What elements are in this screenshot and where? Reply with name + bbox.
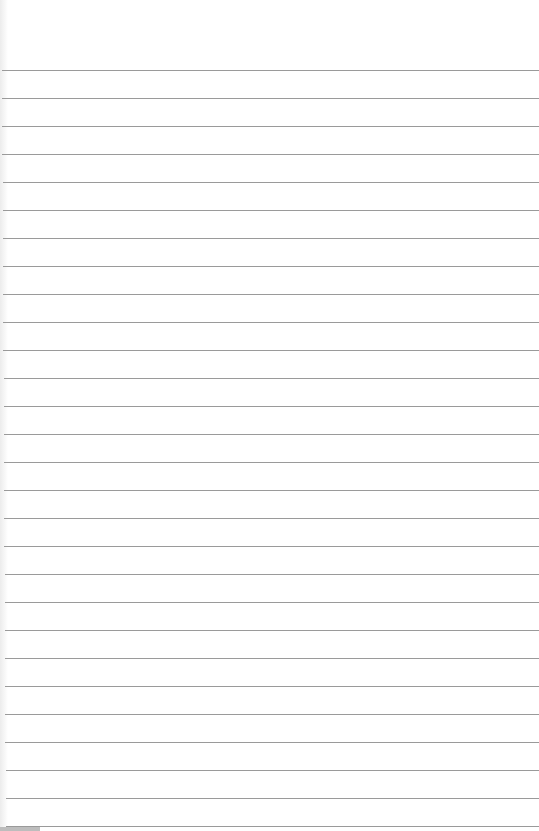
ruled-line <box>5 602 539 603</box>
left-edge-shading <box>0 0 8 831</box>
ruled-line <box>4 518 539 519</box>
ruled-line <box>5 630 539 631</box>
ruled-line <box>5 686 539 687</box>
ruled-line <box>2 98 539 99</box>
ruled-line <box>2 126 539 127</box>
ruled-line <box>5 574 539 575</box>
lined-paper-page <box>0 0 539 831</box>
ruled-line <box>3 322 539 323</box>
ruled-line <box>4 434 539 435</box>
ruled-line <box>3 294 539 295</box>
ruled-line <box>5 714 539 715</box>
ruled-line <box>4 546 539 547</box>
bottom-shadow <box>0 827 40 831</box>
ruled-line <box>5 658 539 659</box>
ruled-line <box>4 378 539 379</box>
ruled-line <box>5 742 539 743</box>
ruled-line <box>6 770 539 771</box>
ruled-line <box>4 406 539 407</box>
ruled-line <box>3 266 539 267</box>
ruled-line <box>3 182 539 183</box>
ruled-line <box>4 490 539 491</box>
ruled-line <box>4 462 539 463</box>
ruled-line <box>6 826 539 827</box>
ruled-line <box>2 154 539 155</box>
ruled-line <box>3 210 539 211</box>
ruled-line <box>6 798 539 799</box>
ruled-line <box>2 70 539 71</box>
ruled-line <box>3 350 539 351</box>
ruled-line <box>3 238 539 239</box>
